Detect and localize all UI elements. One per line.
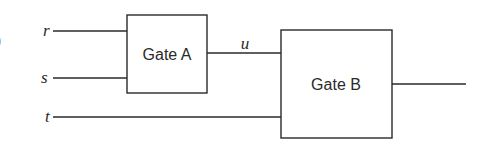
gate-a: Gate A [127,15,207,93]
input-label-t: t [45,107,51,126]
logic-circuit-diagram: ) r s t Gate A u Gate B [0,0,488,144]
input-label-r: r [43,21,50,40]
cropped-edge-mark: ) [0,32,1,49]
input-label-s: s [41,68,48,87]
gate-b: Gate B [281,30,392,138]
gate-a-label: Gate A [143,46,192,63]
intermediate-label-u: u [241,34,250,53]
gate-b-label: Gate B [311,76,361,93]
